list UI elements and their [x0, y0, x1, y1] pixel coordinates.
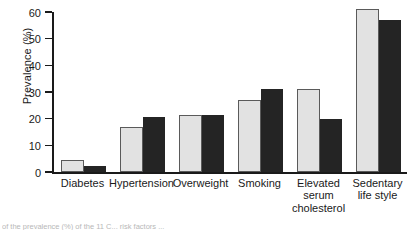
category-label-line: cholesterol	[282, 202, 355, 214]
x-axis-line	[52, 172, 407, 174]
bar-group	[179, 12, 224, 172]
y-axis-tick-label: 20	[29, 113, 45, 125]
plot-area	[53, 12, 407, 172]
bar-light	[297, 89, 320, 172]
y-axis-tick: 20	[45, 118, 52, 120]
bar-dark	[261, 89, 284, 172]
bar-light	[120, 127, 143, 172]
bar-light	[356, 9, 379, 172]
y-axis-tick: 0	[45, 171, 52, 173]
bar-group	[297, 12, 342, 172]
bar-dark	[320, 119, 343, 172]
y-axis-tick-label: 0	[35, 167, 45, 179]
y-axis-tick-label: 10	[29, 140, 45, 152]
x-axis-category-label: Sedentarylife style	[341, 177, 414, 202]
bar-light	[238, 100, 261, 172]
y-axis-tick-label: 40	[29, 60, 45, 72]
bar-group	[356, 12, 401, 172]
y-axis-tick: 40	[45, 65, 52, 67]
bar-light	[61, 160, 84, 172]
bar-chart-figure: Prevalence (%) 0102030405060 DiabetesHyp…	[0, 0, 420, 230]
bar-dark	[143, 117, 166, 172]
bar-group	[238, 12, 283, 172]
bar-group	[120, 12, 165, 172]
y-axis-tick-label: 60	[29, 7, 45, 19]
y-axis-tick: 60	[45, 11, 52, 13]
category-label-line: Sedentary	[341, 177, 414, 189]
y-axis-tick-label: 30	[29, 87, 45, 99]
y-axis-tick: 10	[45, 145, 52, 147]
y-axis-tick: 30	[45, 91, 52, 93]
figure-caption: of the prevalence (%) of the 11 C... ris…	[2, 222, 418, 230]
bar-dark	[84, 166, 107, 172]
bar-group	[61, 12, 106, 172]
y-axis-tick: 50	[45, 38, 52, 40]
category-label-line: life style	[341, 189, 414, 201]
bar-dark	[379, 20, 402, 172]
bar-light	[179, 115, 202, 172]
bar-dark	[202, 115, 225, 172]
y-axis-tick-label: 50	[29, 33, 45, 45]
